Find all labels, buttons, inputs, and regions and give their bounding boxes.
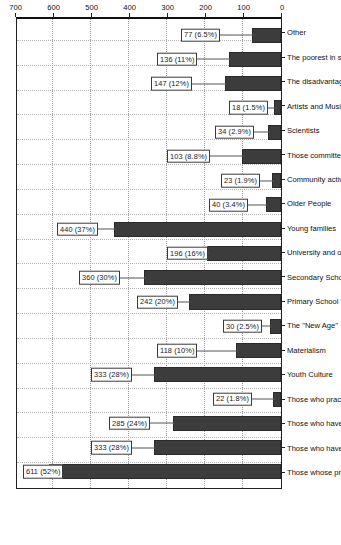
value-axis: 0100200300400500600700 [16,0,282,17]
category-tick [282,203,285,204]
bar-value-label: 196 (16%) [167,247,208,260]
value-tick-label: 500 [86,4,99,12]
bar[interactable] [236,343,281,358]
category-label: The poorest in society [287,54,341,62]
category-label: Other [287,29,306,37]
category-tick [282,423,285,424]
category-tick-group: Primary School Students [284,290,340,314]
category-label: Materialism [287,347,326,355]
bar[interactable] [229,52,281,67]
bar[interactable] [207,246,281,261]
bar[interactable] [49,464,281,479]
bar[interactable] [252,28,281,43]
category-tick-group: Those who practise other faiths [284,387,340,411]
bar-value-label: 333 (28%) [91,441,132,454]
value-tick-label: 700 [10,4,23,12]
bar-column: 23 (1.9%) [17,169,281,193]
category-tick [282,350,285,351]
bar[interactable] [266,197,281,212]
category-tick-group: Young families [284,216,340,240]
category-tick-group: Those whose practice is now largely inac… [284,461,340,485]
category-tick-group: Scientists [284,119,340,143]
category-tick [282,154,285,155]
bar-column: 360 (30%) [17,266,281,290]
bar[interactable] [144,270,281,285]
category-label: Primary School Students [287,298,341,306]
bar-value-label: 285 (24%) [109,417,150,430]
bar-value-label: 77 (6.5%) [181,28,220,41]
value-tick-label: 0 [280,4,284,12]
plot-area: 611 (52%)333 (28%)285 (24%)22 (1.8%)333 … [16,17,282,489]
category-label: Those who have never had any Christian c… [287,420,341,428]
bar-value-label: 118 (10%) [157,344,197,357]
bar[interactable] [189,295,281,310]
category-tick [282,399,285,400]
value-tick [205,13,206,17]
bar-value-label: 103 (8.8%) [167,150,210,163]
category-tick [282,252,285,253]
category-tick-group: The poorest in society [284,45,340,69]
bar-column: 77 (6.5%) [17,23,281,47]
category-label: The disadvantaged [287,78,341,86]
bar-column: 333 (28%) [17,363,281,387]
bar-value-label: 147 (12%) [151,77,192,90]
category-tick [282,228,285,229]
value-tick-label: 600 [48,4,61,12]
bar[interactable] [154,440,281,455]
bar-value-label: 23 (1.9%) [221,174,260,187]
bar-chart: 611 (52%)333 (28%)285 (24%)22 (1.8%)333 … [0,0,341,545]
value-tick-label: 300 [162,4,175,12]
bar-value-label: 360 (30%) [79,271,120,284]
bar-column: 196 (16%) [17,241,281,265]
bar-column: 118 (10%) [17,338,281,362]
category-label: Secondary School Students [287,274,341,282]
value-tick [167,13,168,17]
value-tick [243,13,244,17]
category-label: Artists and Musicians [287,103,341,111]
bar-value-label: 242 (20%) [137,295,178,308]
category-label: Those who practise other faiths [287,396,341,404]
label-leader-line [215,35,254,36]
category-tick-group: Materialism [284,338,340,362]
category-label: Scientists [287,127,320,135]
bar[interactable] [225,76,281,91]
bar-column: 22 (1.8%) [17,387,281,411]
category-tick [282,472,285,473]
category-label: Youth Culture [287,371,333,379]
bar[interactable] [242,149,281,164]
bar-column: 40 (3.4%) [17,193,281,217]
bar[interactable] [114,222,281,237]
category-tick-group: University and other older students [284,241,340,265]
bar-column: 611 (52%) [17,460,281,484]
category-axis: Those whose practice is now largely inac… [284,17,340,489]
bar-column: 242 (20%) [17,290,281,314]
bar-column: 30 (2.5%) [17,314,281,338]
category-tick [282,32,285,33]
category-tick-group: The "New Age" [284,314,340,338]
category-label: Young families [287,225,336,233]
category-tick [282,276,285,277]
category-label: Those who have deliberately chosen to le… [287,445,341,453]
bar-value-label: 611 (52%) [23,465,63,478]
bar[interactable] [173,416,281,431]
value-tick [53,13,54,17]
bar-value-label: 22 (1.8%) [213,392,252,405]
bar-value-label: 440 (37%) [57,223,98,236]
category-tick-group: Youth Culture [284,363,340,387]
bar-series: 611 (52%)333 (28%)285 (24%)22 (1.8%)333 … [17,19,281,488]
category-label: Those whose practice is now largely inac… [287,469,341,477]
category-tick [282,57,285,58]
category-label: The "New Age" [287,322,338,330]
bar-column: 18 (1.5%) [17,96,281,120]
bar-column: 34 (2.9%) [17,120,281,144]
bar-value-label: 18 (1.5%) [229,101,268,114]
category-label: Older People [287,200,331,208]
category-tick [282,325,285,326]
bar-column: 147 (12%) [17,71,281,95]
bar-column: 285 (24%) [17,411,281,435]
bar-column: 440 (37%) [17,217,281,241]
category-tick-group: Those who have never had any Christian c… [284,412,340,436]
bar-value-label: 34 (2.9%) [215,125,254,138]
category-tick-group: The disadvantaged [284,70,340,94]
bar[interactable] [154,367,281,382]
